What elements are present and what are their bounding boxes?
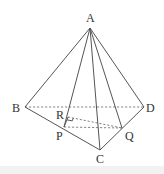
edge-AD <box>90 28 144 107</box>
edge-AQ <box>90 28 122 128</box>
label-Q: Q <box>125 129 134 143</box>
label-P: P <box>56 129 63 143</box>
label-A: A <box>86 11 95 25</box>
label-R: R <box>56 108 64 122</box>
edge-AC <box>90 28 100 150</box>
edge-AP <box>64 28 90 127</box>
label-B: B <box>12 101 20 115</box>
edge-CD <box>100 107 144 150</box>
edge-AB <box>25 28 90 107</box>
label-C: C <box>96 152 104 166</box>
bottom-background-strip <box>0 166 164 174</box>
tetrahedron-diagram: A B C D P Q R <box>0 0 164 174</box>
edge-RQ <box>68 117 122 128</box>
edge-PQ <box>64 127 122 128</box>
label-D: D <box>146 101 155 115</box>
